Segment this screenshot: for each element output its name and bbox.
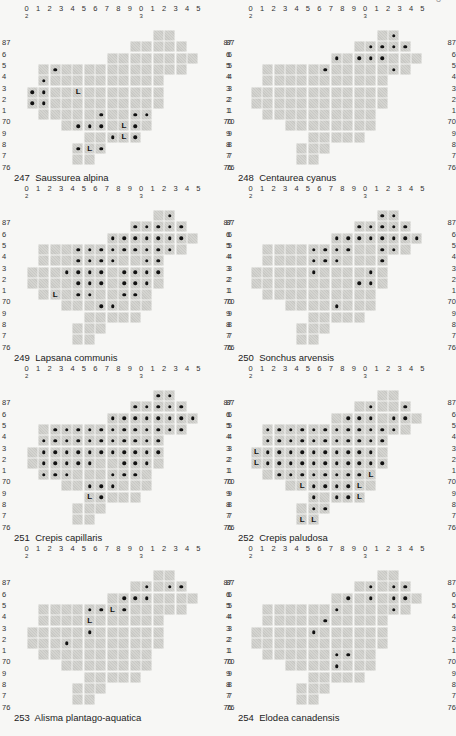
row-label: 9 — [226, 670, 230, 678]
column-label-text: 6 — [93, 544, 97, 553]
grid-cell — [377, 593, 388, 604]
species-number: 253 — [14, 712, 30, 723]
grid-cell — [296, 87, 307, 98]
row-label: 2 — [452, 276, 456, 284]
column-label-text: 9 — [128, 4, 132, 13]
grid-cell — [308, 120, 319, 131]
record-dot — [381, 237, 385, 241]
grid-cell — [274, 75, 285, 86]
grid-cell — [400, 53, 411, 64]
grid-cell — [319, 120, 330, 131]
grid-cell — [331, 593, 342, 604]
record-dot — [134, 282, 138, 286]
grid-cell — [61, 64, 72, 75]
grid-cell — [130, 312, 141, 323]
record-dot — [404, 225, 408, 229]
grid-cell — [141, 480, 152, 491]
grid-cell — [164, 604, 175, 615]
grid-cell — [95, 75, 106, 86]
grid-cell — [72, 300, 83, 311]
column-label-text: 9 — [128, 184, 132, 193]
column-label-text: 9 — [128, 364, 132, 373]
column-label: 4 — [409, 365, 413, 373]
grid-cell — [319, 143, 330, 154]
column-label-text: 0 — [139, 184, 143, 193]
grid-cell — [130, 649, 141, 660]
grid-cell — [400, 604, 411, 615]
record-dot — [369, 405, 373, 409]
record-dot — [335, 57, 339, 61]
grid-cell — [411, 413, 422, 424]
column-label-text: 5 — [306, 4, 310, 13]
grid-cell — [319, 492, 330, 503]
grid-cell — [285, 244, 296, 255]
grid-cell — [38, 278, 49, 289]
record-dot — [134, 293, 138, 297]
grid-cell — [319, 278, 330, 289]
record-dot — [42, 473, 46, 477]
row-label: 8 — [452, 321, 456, 329]
column-label-text: 8 — [340, 4, 344, 13]
record-dot — [278, 428, 282, 432]
column-label-text: 1 — [375, 4, 379, 13]
record-dot — [122, 270, 126, 274]
grid-cell — [141, 87, 152, 98]
grid-cell — [38, 244, 49, 255]
column-label-text: 5 — [420, 184, 424, 193]
column-label: 1 — [36, 545, 40, 553]
map-caption: 249 Lapsana communis — [14, 352, 118, 363]
row-label: 8 — [226, 501, 230, 509]
column-label: 4 — [294, 545, 298, 553]
column-label: 5 — [420, 365, 424, 373]
column-label: 8 — [340, 185, 344, 193]
grid-cell — [72, 627, 83, 638]
record-dot — [404, 585, 408, 589]
grid-cell — [365, 604, 376, 615]
row-label: 87 — [448, 219, 456, 227]
column-label: 5 — [420, 545, 424, 553]
grid-cell — [27, 447, 38, 458]
grid-cell — [377, 581, 388, 592]
grid-cell — [274, 604, 285, 615]
row-label: 5 — [2, 602, 6, 610]
record-dot — [346, 496, 350, 500]
row-label: 7 — [452, 512, 456, 520]
row-labels-left: 876543217098776 — [224, 390, 240, 550]
column-label-text: 4 — [70, 184, 74, 193]
row-label: 7 — [2, 152, 6, 160]
grid-cell — [308, 312, 319, 323]
column-label: 03 — [139, 365, 143, 379]
column-label: 8 — [116, 185, 120, 193]
row-label: 8 — [452, 501, 456, 509]
grid-cell — [153, 53, 164, 64]
grid-cell — [84, 300, 95, 311]
record-dot — [88, 293, 92, 297]
record-dot — [134, 597, 138, 601]
record-dot — [145, 462, 149, 466]
column-label: 03 — [363, 545, 367, 559]
grid-cell — [107, 458, 118, 469]
row-label: 3 — [226, 265, 230, 273]
column-label: 3 — [397, 365, 401, 373]
row-label: 9 — [452, 130, 456, 138]
column-label: 9 — [128, 365, 132, 373]
row-label: 8 — [452, 681, 456, 689]
column-label-text: 2 — [162, 544, 166, 553]
grid-cell — [342, 53, 353, 64]
column-label: 2 — [386, 185, 390, 193]
grid-cell — [331, 98, 342, 109]
record-dot — [145, 450, 149, 454]
grid-cell — [107, 87, 118, 98]
column-label: 6 — [93, 545, 97, 553]
column-label: 1 — [260, 545, 264, 553]
grid-cell — [50, 638, 61, 649]
row-labels-left: 876543217098776 — [224, 30, 240, 190]
column-label: 1 — [36, 5, 40, 13]
grid-cell — [187, 53, 198, 64]
row-label: 76 — [2, 524, 10, 532]
grid-cell — [262, 109, 273, 120]
record-dot — [65, 428, 69, 432]
record-dot — [323, 450, 327, 454]
record-dot — [323, 619, 327, 623]
species-name: Sonchus arvensis — [254, 352, 334, 363]
